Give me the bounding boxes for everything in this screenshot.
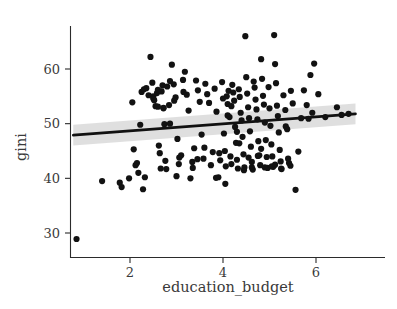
data-point	[273, 80, 279, 86]
data-point	[191, 145, 197, 151]
data-point	[260, 93, 266, 99]
data-point	[265, 84, 271, 90]
data-point	[251, 78, 257, 84]
data-point	[162, 158, 168, 164]
data-point	[230, 89, 236, 95]
data-point	[158, 165, 164, 171]
data-point	[240, 151, 246, 157]
data-point	[231, 98, 237, 104]
data-point	[258, 56, 264, 62]
data-point	[268, 141, 274, 147]
data-point	[246, 115, 252, 121]
data-point	[245, 104, 251, 110]
data-point	[242, 33, 248, 39]
data-point	[131, 146, 137, 152]
data-point	[315, 91, 321, 97]
data-point	[253, 106, 259, 112]
data-point	[309, 110, 315, 116]
data-point	[182, 69, 188, 75]
data-point	[176, 161, 182, 167]
data-point	[206, 100, 212, 106]
data-point	[229, 82, 235, 88]
data-point	[159, 88, 165, 94]
data-point	[150, 95, 156, 101]
data-point	[263, 137, 269, 143]
data-point	[227, 153, 233, 159]
data-point	[157, 150, 163, 156]
data-point	[235, 165, 241, 171]
data-point	[163, 166, 169, 172]
data-point	[334, 104, 340, 110]
data-point	[228, 103, 234, 109]
data-point	[292, 187, 298, 193]
y-tick-label: 60	[43, 62, 60, 77]
chart-canvas: 246 30405060 education_budget gini	[0, 0, 397, 309]
data-point	[264, 154, 270, 160]
data-point	[119, 184, 125, 190]
data-point	[210, 149, 216, 155]
y-tick-label: 50	[43, 116, 60, 131]
data-point	[149, 80, 155, 86]
data-point	[243, 74, 249, 80]
data-point	[247, 128, 253, 134]
data-point	[167, 78, 173, 84]
data-point	[129, 99, 135, 105]
data-point	[135, 170, 141, 176]
data-point	[278, 158, 284, 164]
data-point	[259, 76, 265, 82]
data-point	[73, 236, 79, 242]
y-tick-label: 40	[43, 171, 60, 186]
data-point	[290, 100, 296, 106]
data-point	[213, 175, 219, 181]
data-point	[248, 144, 254, 150]
data-point	[169, 62, 175, 68]
plot-background	[0, 0, 397, 309]
data-point	[180, 89, 186, 95]
data-point	[261, 101, 267, 107]
data-point	[236, 140, 242, 146]
data-point	[155, 104, 161, 110]
data-point	[221, 130, 227, 136]
data-point	[193, 77, 199, 83]
data-point	[269, 153, 275, 159]
data-point	[236, 86, 242, 92]
data-point	[262, 164, 268, 170]
x-tick-label: 6	[312, 265, 320, 280]
data-point	[142, 174, 148, 180]
data-point	[161, 121, 167, 127]
data-point	[271, 32, 277, 38]
data-point	[252, 84, 258, 90]
data-point	[167, 121, 173, 127]
x-tick-label: 2	[126, 265, 134, 280]
data-point	[234, 157, 240, 163]
y-tick-label: 30	[43, 226, 60, 241]
data-point	[237, 94, 243, 100]
data-point	[99, 178, 105, 184]
data-point	[288, 88, 294, 94]
data-point	[280, 92, 286, 98]
data-point	[141, 86, 147, 92]
scatter-plot-figure: 246 30405060 education_budget gini	[0, 0, 397, 309]
data-point	[222, 148, 228, 154]
data-point	[171, 98, 177, 104]
data-point	[274, 103, 280, 109]
data-point	[173, 173, 179, 179]
data-point	[234, 129, 240, 135]
data-point	[195, 87, 201, 93]
data-point	[276, 129, 282, 135]
data-point	[201, 145, 207, 151]
data-point	[295, 148, 301, 154]
data-point	[283, 123, 289, 129]
data-point	[216, 150, 222, 156]
data-point	[311, 60, 317, 66]
data-point	[140, 186, 146, 192]
data-point	[180, 77, 186, 83]
data-point	[178, 152, 184, 158]
data-point	[272, 61, 278, 67]
data-point	[238, 110, 244, 116]
data-point	[224, 93, 230, 99]
data-point	[241, 167, 247, 173]
data-point	[200, 156, 206, 162]
data-point	[267, 123, 273, 129]
data-point	[304, 102, 310, 108]
